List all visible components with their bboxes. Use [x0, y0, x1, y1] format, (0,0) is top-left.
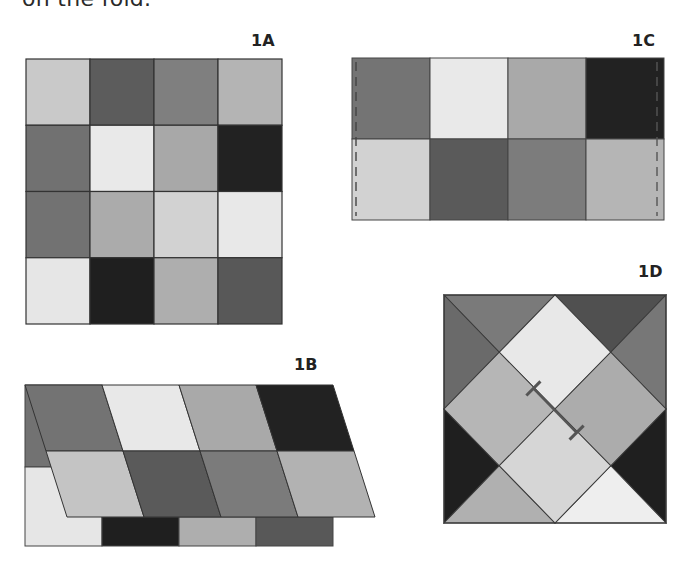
grid-cell [90, 192, 154, 258]
figure-1b-sheared [25, 385, 377, 547]
grid-cell [154, 258, 218, 324]
caption-text: on the fold. [22, 0, 151, 11]
grid-cell [430, 58, 508, 139]
grid-cell [26, 258, 90, 324]
grid-cell [218, 59, 282, 125]
grid-cell [352, 139, 430, 220]
grid-cell [218, 258, 282, 324]
grid-cell [218, 125, 282, 191]
grid-cell [508, 58, 586, 139]
figure-label-1a: 1A [251, 31, 275, 50]
grid-cell [586, 139, 664, 220]
figure-1c-folded [352, 58, 664, 220]
grid-cell [352, 58, 430, 139]
grid-cell [154, 59, 218, 125]
figure-1d-diamonds [444, 295, 666, 523]
figure-label-1c: 1C [632, 31, 655, 50]
grid-cell [26, 192, 90, 258]
grid-cell [154, 192, 218, 258]
figure-1a-grid [26, 59, 282, 324]
grid-cell [90, 125, 154, 191]
grid-cell [508, 139, 586, 220]
under-cell [256, 517, 333, 546]
grid-cell [26, 59, 90, 125]
grid-cell [90, 59, 154, 125]
grid-cell [154, 125, 218, 191]
grid-cell [586, 58, 664, 139]
under-cell [179, 517, 256, 546]
under-cell [102, 517, 179, 546]
grid-cell [430, 139, 508, 220]
figure-label-1d: 1D [638, 262, 662, 281]
grid-cell [90, 258, 154, 324]
figure-label-1b: 1B [294, 355, 317, 374]
grid-cell [26, 125, 90, 191]
grid-cell [218, 192, 282, 258]
